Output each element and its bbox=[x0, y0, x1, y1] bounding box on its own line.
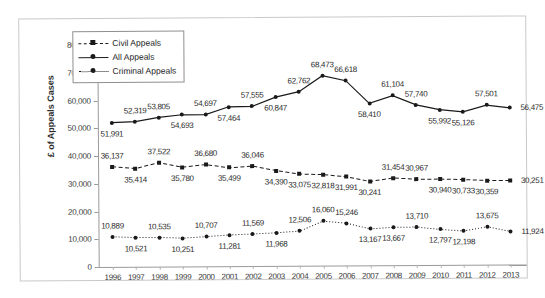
x-tick-label: 2005 bbox=[315, 272, 332, 281]
data-label: 15,246 bbox=[335, 208, 358, 217]
x-tick bbox=[183, 267, 184, 270]
x-tick bbox=[160, 267, 161, 270]
y-tick-label: 60,000 bbox=[67, 96, 90, 105]
data-label: 13,675 bbox=[476, 211, 499, 220]
data-point-marker bbox=[368, 179, 372, 183]
data-point-marker bbox=[508, 229, 512, 233]
data-point-marker bbox=[344, 175, 348, 179]
data-label: 58,410 bbox=[358, 110, 381, 119]
data-point-marker bbox=[110, 165, 114, 169]
data-point-marker bbox=[415, 177, 419, 181]
legend-label: Criminal Appeals bbox=[112, 66, 176, 76]
x-tick bbox=[347, 266, 348, 269]
y-tick-label: 0 bbox=[87, 263, 91, 272]
data-label: 35,414 bbox=[124, 175, 147, 184]
legend-symbol-icon bbox=[78, 66, 108, 76]
data-label: 57,464 bbox=[217, 113, 240, 122]
data-label: 10,251 bbox=[171, 245, 194, 254]
data-label: 30,967 bbox=[405, 164, 428, 173]
x-tick-label: 2007 bbox=[362, 271, 379, 280]
data-label: 56,475 bbox=[520, 103, 543, 112]
y-tick bbox=[95, 267, 99, 268]
x-tick bbox=[487, 265, 488, 268]
data-label: 57,501 bbox=[475, 90, 498, 99]
data-point-marker bbox=[508, 179, 512, 183]
data-point-marker bbox=[485, 225, 489, 229]
x-tick-label: 1998 bbox=[151, 273, 168, 282]
data-point-marker bbox=[320, 74, 324, 78]
data-label: 35,499 bbox=[218, 174, 241, 183]
data-point-marker bbox=[204, 235, 208, 239]
y-axis-title: £ of Appeals Cases bbox=[46, 75, 57, 157]
data-label: 30,940 bbox=[429, 186, 452, 195]
data-label: 10,707 bbox=[195, 221, 218, 230]
data-label: 36,137 bbox=[101, 151, 124, 160]
x-tick bbox=[206, 266, 207, 269]
data-point-marker bbox=[438, 108, 442, 112]
x-tick-label: 1997 bbox=[128, 273, 145, 282]
x-tick bbox=[136, 267, 137, 270]
data-point-marker bbox=[157, 115, 161, 119]
x-tick-label: 2006 bbox=[339, 271, 356, 280]
data-point-marker bbox=[391, 225, 395, 229]
x-tick bbox=[230, 266, 231, 269]
data-label: 30,733 bbox=[452, 186, 475, 195]
x-tick bbox=[440, 265, 441, 268]
x-tick-label: 2000 bbox=[198, 272, 215, 281]
data-label: 31,454 bbox=[382, 162, 405, 171]
data-point-marker bbox=[157, 161, 161, 165]
x-tick bbox=[417, 265, 418, 268]
data-label: 52,319 bbox=[124, 106, 147, 115]
legend-item[interactable]: All Appeals bbox=[78, 50, 176, 65]
x-tick-label: 2012 bbox=[479, 271, 496, 280]
data-point-marker bbox=[438, 177, 442, 181]
data-label: 10,889 bbox=[101, 221, 124, 230]
data-point-marker bbox=[227, 166, 231, 170]
data-label: 10,521 bbox=[125, 244, 148, 253]
legend-label: All Appeals bbox=[112, 52, 154, 62]
x-tick bbox=[370, 265, 371, 268]
x-tick bbox=[511, 265, 512, 268]
data-point-marker bbox=[134, 167, 138, 171]
chart-figure: £ of Appeals Cases 80,00070,00060,00050,… bbox=[0, 0, 545, 298]
data-point-marker bbox=[228, 233, 232, 237]
x-tick-label: 2002 bbox=[245, 272, 262, 281]
data-label: 13,167 bbox=[359, 235, 382, 244]
data-label: 31,991 bbox=[335, 183, 358, 192]
x-tick bbox=[253, 266, 254, 269]
data-point-marker bbox=[297, 172, 301, 176]
y-tick-label: 30,000 bbox=[68, 179, 91, 188]
x-tick-label: 2004 bbox=[292, 272, 309, 281]
data-label: 33,075 bbox=[288, 180, 311, 189]
data-label: 53,805 bbox=[147, 102, 170, 111]
data-label: 30,359 bbox=[475, 187, 498, 196]
data-label: 11,569 bbox=[242, 218, 264, 227]
x-tick-label: 2003 bbox=[268, 272, 285, 281]
data-point-marker bbox=[274, 231, 278, 235]
data-label: 60,847 bbox=[264, 104, 287, 113]
legend-item[interactable]: Civil Appeals bbox=[78, 36, 176, 51]
y-tick-label: 20,000 bbox=[68, 207, 91, 216]
x-tick bbox=[323, 266, 324, 269]
data-point-marker bbox=[203, 113, 207, 117]
data-point-marker bbox=[181, 236, 185, 240]
x-tick-label: 1996 bbox=[104, 273, 121, 282]
data-label: 30,251 bbox=[521, 176, 544, 185]
x-tick-label: 2001 bbox=[221, 272, 238, 281]
data-label: 61,104 bbox=[381, 80, 404, 89]
data-point-marker bbox=[321, 173, 325, 177]
y-tick-label: 40,000 bbox=[68, 152, 91, 161]
x-tick-label: 2009 bbox=[409, 271, 426, 280]
data-label: 11,924 bbox=[521, 227, 543, 236]
x-tick bbox=[300, 266, 301, 269]
data-point-marker bbox=[111, 235, 115, 239]
data-label: 16,060 bbox=[312, 206, 335, 215]
legend-item[interactable]: Criminal Appeals bbox=[78, 64, 176, 79]
data-point-marker bbox=[391, 176, 395, 180]
data-label: 54,693 bbox=[171, 121, 194, 130]
chart-frame: £ of Appeals Cases 80,00070,00060,00050,… bbox=[18, 15, 528, 281]
data-label: 54,697 bbox=[194, 99, 217, 108]
data-label: 57,740 bbox=[405, 89, 428, 98]
data-label: 37,522 bbox=[147, 147, 170, 156]
data-point-marker bbox=[367, 101, 371, 105]
